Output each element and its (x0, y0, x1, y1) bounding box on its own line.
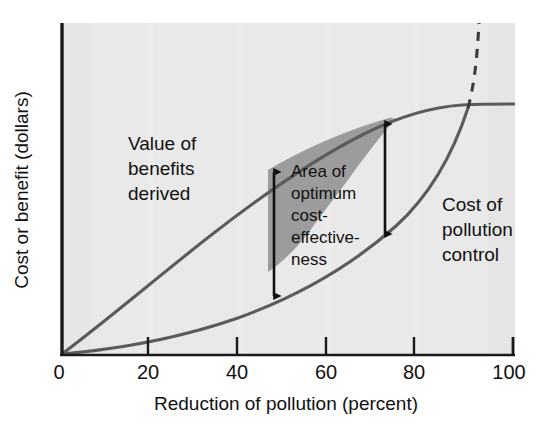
x-tick-label-100: 100 (492, 361, 525, 383)
optimum-region-label-line-4: effective- (291, 228, 360, 247)
chart-canvas: 0 20 40 60 80 100 Reduction of pollution… (0, 0, 539, 437)
benefits-curve-label-line-3: derived (128, 183, 190, 204)
optimum-region-label-line-3: cost- (291, 206, 328, 225)
benefits-curve-label-line-2: benefits (128, 158, 195, 179)
x-tick-label-0: 0 (53, 361, 64, 383)
x-tick-label-60: 60 (315, 361, 337, 383)
cost-curve-label-line-3: control (442, 244, 499, 265)
x-tick-label-40: 40 (226, 361, 248, 383)
optimum-region-label-line-2: optimum (291, 184, 356, 203)
x-tick-label-20: 20 (137, 361, 159, 383)
x-tick-label-80: 80 (403, 361, 425, 383)
chart-figure: 0 20 40 60 80 100 Reduction of pollution… (0, 0, 539, 437)
y-axis-title: Cost or benefit (dollars) (11, 91, 32, 288)
cost-curve-label-line-1: Cost of (442, 194, 503, 215)
x-axis-title: Reduction of pollution (percent) (154, 393, 418, 414)
x-tick-labels: 0 20 40 60 80 100 (53, 361, 525, 383)
optimum-region-label-line-1: Area of (291, 162, 346, 181)
benefits-curve-label: Value of benefits derived (128, 133, 197, 204)
optimum-region-label-line-5: ness (291, 250, 327, 269)
cost-curve-label-line-2: pollution (442, 219, 513, 240)
benefits-curve-label-line-1: Value of (128, 133, 197, 154)
